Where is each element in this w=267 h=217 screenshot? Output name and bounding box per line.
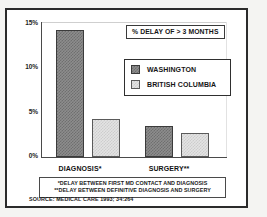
legend-label-british-columbia: BRITISH COLUMBIA [147,81,216,88]
legend-label-washington: WASHINGTON [147,66,196,73]
legend: WASHINGTON BRITISH COLUMBIA [124,59,231,96]
y-axis: 15% 10% 5% 0% [0,0,38,217]
legend-item-washington[interactable]: WASHINGTON [131,65,224,74]
chart-figure: 15% 10% 5% 0% % DELAY OF > 3 MONTHS WASH… [0,0,267,217]
bar-surgery-british-columbia[interactable] [181,133,209,157]
y-tick-label-10: 10% [4,63,38,70]
bar-diagnosis-washington[interactable] [56,30,84,157]
legend-swatch-washington-icon [131,65,140,74]
x-tick-label-surgery: SURGERY** [130,165,208,172]
bar-surgery-washington[interactable] [145,126,173,157]
source-note: SOURCE: MEDICAL CARE 1993; 34:264 [29,196,133,202]
footnote-box: *DELAY BETWEEN FIRST MD CONTACT AND DIAG… [39,177,226,198]
bar-diagnosis-british-columbia[interactable] [92,119,120,157]
footnote-line-2: **DELAY BETWEEN DEFINITIVE DIAGNOSIS AND… [42,187,223,195]
legend-item-british-columbia[interactable]: BRITISH COLUMBIA [131,80,224,89]
y-tick-label-5: 5% [4,108,38,115]
legend-swatch-british-columbia-icon [131,80,140,89]
y-tick-label-15: 15% [4,19,38,26]
y-tick-label-0: 0% [4,152,38,159]
footnote-line-1: *DELAY BETWEEN FIRST MD CONTACT AND DIAG… [42,180,223,188]
chart-title-box: % DELAY OF > 3 MONTHS [126,25,225,39]
x-tick-label-diagnosis: DIAGNOSIS* [41,165,119,172]
